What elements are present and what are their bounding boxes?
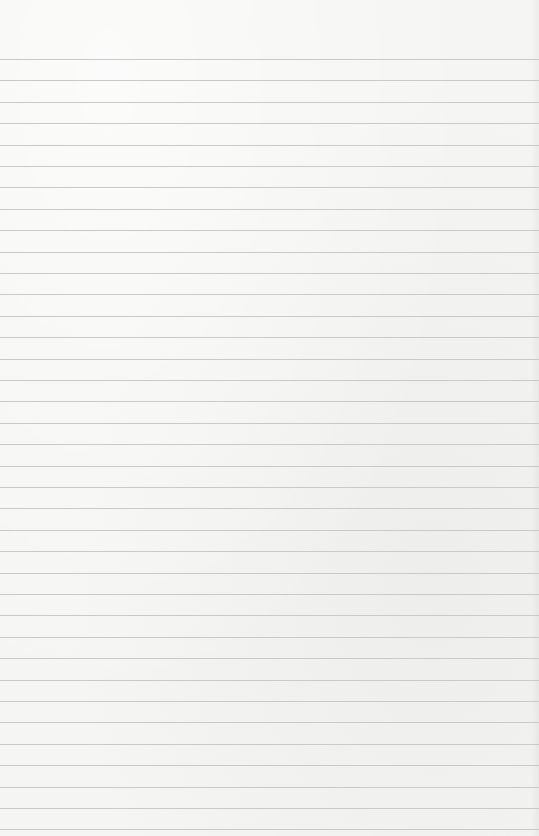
ruled-line (0, 123, 539, 124)
ruled-line (0, 551, 539, 552)
ruled-line (0, 530, 539, 531)
ruled-line (0, 294, 539, 295)
ruled-line (0, 423, 539, 424)
ruled-line (0, 59, 539, 60)
ruled-line (0, 145, 539, 146)
ruled-line (0, 744, 539, 745)
ruled-line (0, 808, 539, 809)
ruled-line (0, 102, 539, 103)
ruled-line (0, 508, 539, 509)
ruled-line (0, 829, 539, 830)
ruled-line (0, 701, 539, 702)
ruled-line (0, 230, 539, 231)
ruled-line (0, 380, 539, 381)
ruled-line (0, 273, 539, 274)
ruled-line (0, 187, 539, 188)
ruled-line (0, 359, 539, 360)
ruled-line (0, 680, 539, 681)
ruled-line (0, 80, 539, 81)
ruled-line (0, 573, 539, 574)
ruled-line (0, 337, 539, 338)
ruled-line (0, 765, 539, 766)
ruled-line (0, 252, 539, 253)
ruled-line (0, 316, 539, 317)
ruled-line (0, 166, 539, 167)
paper-edge-shadow (531, 0, 539, 836)
ruled-line (0, 444, 539, 445)
ruled-line (0, 401, 539, 402)
ruled-line (0, 658, 539, 659)
ruled-line (0, 466, 539, 467)
ruled-line (0, 487, 539, 488)
ruled-line (0, 209, 539, 210)
ruled-line (0, 615, 539, 616)
ruled-line (0, 787, 539, 788)
ruled-line (0, 722, 539, 723)
ruled-line (0, 637, 539, 638)
lined-paper-sheet (0, 0, 539, 836)
ruled-line (0, 594, 539, 595)
